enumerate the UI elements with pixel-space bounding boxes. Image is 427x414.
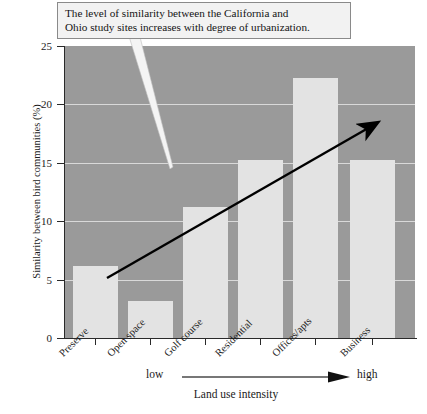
figure: The level of similarity between the Cali… bbox=[0, 0, 427, 414]
y-axis-line bbox=[64, 46, 65, 339]
bar-business bbox=[350, 160, 395, 338]
gridline-20 bbox=[65, 104, 415, 105]
plot-area bbox=[65, 46, 415, 338]
x-tick-golf-course bbox=[205, 339, 206, 345]
intensity-high-label: high bbox=[357, 368, 377, 380]
y-tick-label-0: 0 bbox=[18, 332, 52, 344]
y-tick-label-25: 25 bbox=[18, 40, 52, 52]
bar-golf-course bbox=[183, 207, 228, 338]
y-tick-20 bbox=[57, 104, 64, 105]
x-tick-preserve bbox=[95, 339, 96, 345]
y-tick-5 bbox=[57, 280, 64, 281]
intensity-low-label: low bbox=[146, 368, 163, 380]
callout-line-2: Ohio study sites increases with degree o… bbox=[65, 20, 344, 34]
bar-residential bbox=[238, 160, 283, 338]
y-tick-15 bbox=[57, 163, 64, 164]
y-tick-25 bbox=[57, 46, 64, 47]
x-tick-open-space bbox=[150, 339, 151, 345]
y-tick-0 bbox=[57, 338, 64, 339]
y-tick-10 bbox=[57, 221, 64, 222]
callout-annotation: The level of similarity between the Cali… bbox=[57, 2, 351, 39]
intensity-scale: low high Land use intensity bbox=[110, 368, 400, 410]
intensity-arrow-icon bbox=[182, 370, 354, 384]
x-tick-residential bbox=[260, 339, 261, 345]
y-axis-title: Similarity between bird communities (%) bbox=[31, 92, 42, 292]
callout-line-1: The level of similarity between the Cali… bbox=[65, 6, 344, 20]
x-tick-offices-apts bbox=[315, 339, 316, 345]
bar-offices-apts bbox=[293, 78, 338, 338]
x-tick-business bbox=[372, 339, 373, 345]
x-axis-title: Land use intensity bbox=[110, 388, 362, 400]
